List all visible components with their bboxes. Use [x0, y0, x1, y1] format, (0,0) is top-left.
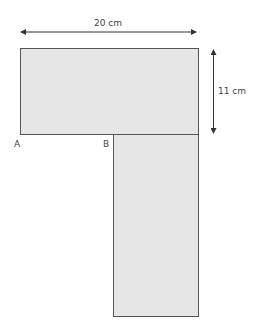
point-b-label: B	[103, 139, 109, 149]
width-label: 20 cm	[94, 18, 122, 28]
point-a-label: A	[14, 139, 21, 149]
height-label: 11 cm	[218, 86, 246, 96]
top-rectangle	[21, 49, 199, 135]
l-shape-diagram: 20 cm 11 cm A B	[0, 0, 253, 330]
bottom-rectangle	[114, 135, 199, 317]
